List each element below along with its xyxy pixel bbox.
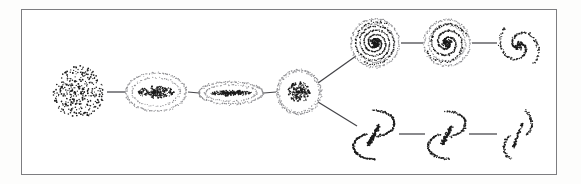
galaxy-Sb bbox=[422, 18, 471, 66]
figure-root bbox=[0, 0, 581, 184]
galaxy-E0 bbox=[53, 65, 104, 117]
hubble-tuning-fork-diagram bbox=[0, 0, 581, 184]
connector-S0-SBa bbox=[318, 102, 357, 126]
galaxy-SBb bbox=[427, 110, 467, 160]
connector-E3-E7 bbox=[188, 92, 199, 93]
galaxy-Sa bbox=[350, 18, 400, 69]
galaxy-S0 bbox=[276, 69, 323, 116]
connector-E7-S0 bbox=[264, 92, 276, 93]
galaxy-E7 bbox=[198, 80, 264, 106]
galaxy-node-layer bbox=[53, 18, 540, 161]
galaxy-Sc bbox=[498, 27, 540, 64]
connector-S0-Sa bbox=[318, 56, 356, 83]
galaxy-E3 bbox=[125, 71, 187, 111]
galaxy-SBa bbox=[352, 109, 395, 160]
galaxy-SBc bbox=[502, 109, 533, 159]
